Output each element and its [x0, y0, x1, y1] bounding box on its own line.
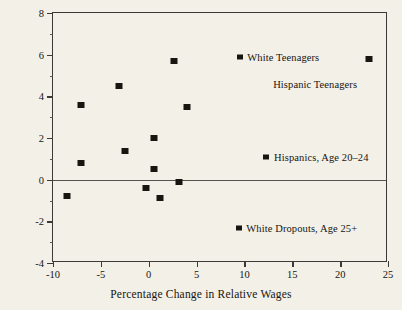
data-point	[121, 148, 128, 154]
data-point	[142, 185, 149, 191]
data-point	[184, 104, 191, 110]
zero-reference-line	[53, 180, 386, 181]
x-axis-tick-label: 5	[194, 269, 199, 280]
y-axis-tick	[47, 13, 53, 14]
data-point	[64, 193, 71, 199]
x-axis-tick	[244, 261, 245, 267]
y-axis-tick	[47, 55, 53, 56]
legend-marker	[236, 225, 242, 230]
x-axis-tick	[53, 261, 54, 267]
y-axis-minor-tick	[50, 159, 54, 160]
data-point	[176, 179, 183, 185]
x-axis-tick-label: -5	[96, 269, 105, 280]
plot-area: 86420-2-4-10-50510152025White TeenagersH…	[52, 12, 387, 262]
x-axis-tick	[388, 261, 389, 267]
y-axis-tick	[47, 221, 53, 222]
y-axis-tick-label: 6	[39, 49, 44, 60]
x-axis-tick-label: 20	[335, 269, 346, 280]
y-axis-tick	[47, 180, 53, 181]
data-point	[365, 56, 372, 62]
y-axis-tick	[47, 96, 53, 97]
scatter-chart: 86420-2-4-10-50510152025White TeenagersH…	[0, 0, 402, 310]
x-axis-tick	[197, 261, 198, 267]
y-axis-tick-label: 4	[39, 91, 44, 102]
x-axis-tick	[340, 261, 341, 267]
x-axis-tick	[101, 261, 102, 267]
x-axis-tick	[149, 261, 150, 267]
x-axis-tick-label: 0	[146, 269, 151, 280]
y-axis-tick	[47, 138, 53, 139]
x-axis-tick-label: 15	[287, 269, 298, 280]
legend-label: Hispanic Teenagers	[273, 78, 357, 89]
legend-label: White Dropouts, Age 25+	[246, 222, 357, 233]
data-point	[170, 58, 177, 64]
data-point	[157, 195, 164, 201]
y-axis-minor-tick	[50, 117, 54, 118]
data-point	[150, 166, 157, 172]
data-point	[116, 83, 123, 89]
x-axis-tick-label: 25	[383, 269, 394, 280]
data-point	[77, 102, 84, 108]
y-axis-tick-label: 8	[39, 8, 44, 19]
y-axis-minor-tick	[50, 242, 54, 243]
x-axis-tick-label: -10	[46, 269, 60, 280]
y-axis-tick-label: 0	[39, 174, 44, 185]
x-axis-title: Percentage Change in Relative Wages	[0, 288, 402, 300]
legend-label: White Teenagers	[247, 51, 319, 62]
y-axis-tick-label: -2	[35, 216, 44, 227]
legend-marker	[263, 154, 269, 159]
y-axis-tick-label: 2	[39, 133, 44, 144]
y-axis-tick-label: -4	[35, 258, 44, 269]
y-axis-minor-tick	[50, 76, 54, 77]
legend-label: Hispanics, Age 20–24	[274, 151, 368, 162]
y-axis-minor-tick	[50, 34, 54, 35]
y-axis-minor-tick	[50, 201, 54, 202]
data-point	[150, 135, 157, 141]
x-axis-tick-label: 10	[239, 269, 250, 280]
x-axis-tick	[292, 261, 293, 267]
data-point	[77, 160, 84, 166]
legend-marker	[237, 54, 243, 59]
